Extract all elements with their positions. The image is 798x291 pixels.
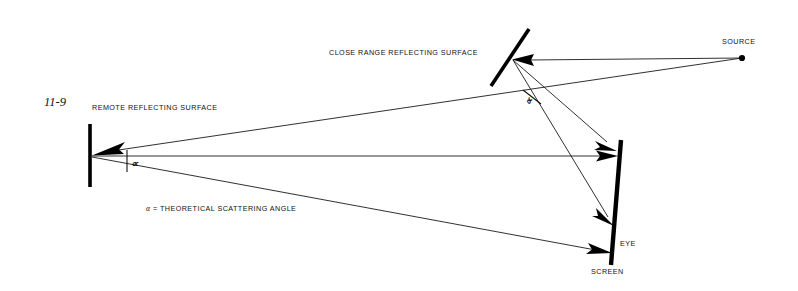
screen-label: SCREEN (591, 267, 624, 276)
source-label: SOURCE (722, 37, 755, 46)
arrowhead-remote-mirror (92, 142, 125, 156)
arrowhead-screen-upper (594, 141, 617, 151)
ray-group (92, 54, 742, 254)
ray-source-to-close-mirror (528, 58, 742, 60)
close-range-reflecting-surface-label: CLOSE RANGE REFLECTING SURFACE (329, 48, 478, 57)
caption-text: = THEORETICAL SCATTERING ANGLE (153, 204, 296, 213)
ray-close-mirror-to-eye (513, 60, 608, 217)
figure-number: 11-9 (44, 95, 67, 109)
caption-alpha-symbol: α (146, 204, 151, 213)
angle-symbol-close: ∝ (522, 95, 535, 107)
angle-mark-close: ∝ (522, 90, 541, 107)
figure-root: ∝ ∝ 11-9 REMOTE REFLECTING SURFACE CLOSE… (0, 0, 798, 291)
eye-label: EYE (620, 239, 636, 248)
remote-reflecting-surface-label: REMOTE REFLECTING SURFACE (92, 103, 217, 112)
angle-symbol-remote: ∝ (131, 158, 139, 169)
optical-ray-diagram: ∝ ∝ 11-9 REMOTE REFLECTING SURFACE CLOSE… (0, 0, 798, 291)
source-point (739, 55, 745, 61)
angle-mark-remote: ∝ (127, 150, 139, 172)
scattering-angle-caption: α = THEORETICAL SCATTERING ANGLE (146, 204, 296, 213)
arrowhead-eye-upper (592, 208, 614, 226)
